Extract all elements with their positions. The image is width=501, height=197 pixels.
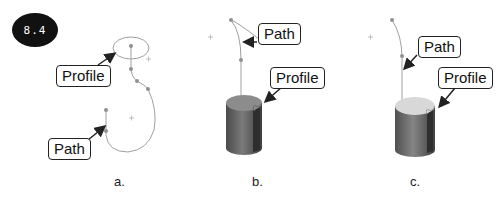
callout-profile-c: Profile [438, 67, 493, 89]
callout-profile-b: Profile [270, 67, 325, 89]
panel-a-sketch [88, 37, 155, 152]
panel-label-b: b. [252, 174, 263, 189]
callout-path-c: Path [418, 36, 461, 58]
figure-canvas [0, 0, 501, 197]
callout-path-b: Path [258, 23, 301, 45]
sweep-path [106, 45, 155, 152]
panel-label-c: c. [410, 174, 420, 189]
panel-label-a: a. [114, 174, 125, 189]
callout-profile-a: Profile [56, 65, 111, 87]
callout-path-a: Path [48, 138, 91, 160]
